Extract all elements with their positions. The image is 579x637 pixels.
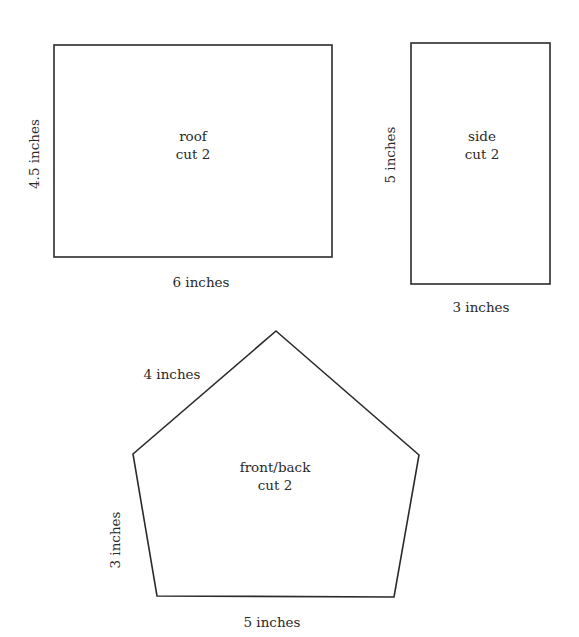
front-back-roof-edge-label: 4 inches — [143, 366, 200, 382]
front-back-base-edge-label: 5 inches — [243, 614, 300, 630]
roof-name: roof — [179, 128, 208, 144]
front-back-name: front/back — [240, 459, 311, 475]
roof-height-label: 4.5 inches — [26, 119, 42, 189]
front-back-piece: front/back cut 2 4 inches 3 inches 5 inc… — [107, 331, 419, 630]
side-height-label: 5 inches — [382, 126, 398, 183]
front-back-instruction: cut 2 — [258, 477, 293, 493]
side-instruction: cut 2 — [465, 146, 500, 162]
side-name: side — [468, 128, 496, 144]
front-back-wall-edge-label: 3 inches — [107, 511, 123, 568]
roof-instruction: cut 2 — [176, 146, 211, 162]
pattern-diagram: roof cut 2 6 inches 4.5 inches side cut … — [0, 0, 579, 637]
side-piece: side cut 2 3 inches 5 inches — [382, 43, 550, 315]
roof-width-label: 6 inches — [172, 274, 229, 290]
roof-piece: roof cut 2 6 inches 4.5 inches — [26, 45, 332, 290]
side-width-label: 3 inches — [452, 299, 509, 315]
side-outline — [411, 43, 550, 284]
